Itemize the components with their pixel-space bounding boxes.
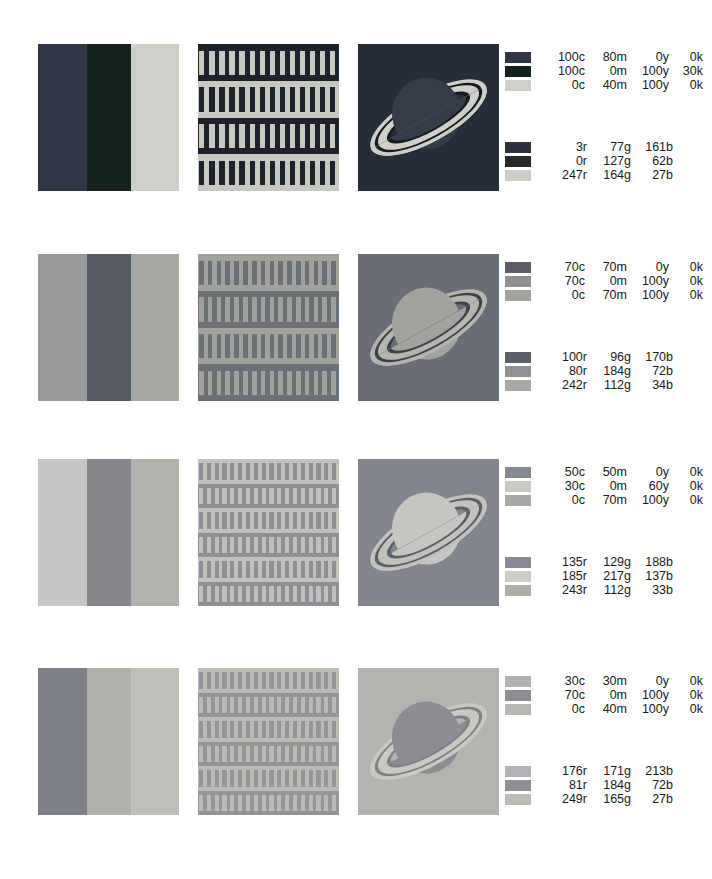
grid-bar <box>320 87 325 111</box>
grid-bar <box>269 561 273 577</box>
vertical-bands <box>38 459 179 606</box>
grid-bar <box>285 561 289 577</box>
cmyk-row: 0c40m100y0k <box>505 702 703 716</box>
grid-bar <box>332 746 336 762</box>
grid-bar <box>243 334 248 358</box>
cmyk-swatch-group: 70c70m0y0k70c0m100y0k0c70m100y0k <box>505 260 703 302</box>
grid-bar <box>217 297 222 321</box>
grid-bar <box>301 721 305 737</box>
grid-bar <box>324 697 328 713</box>
grid-bar <box>269 770 273 786</box>
cmyk-values: 0c40m100y0k <box>547 78 703 92</box>
red-value: 185r <box>547 569 587 583</box>
grid-bar <box>285 488 289 504</box>
panel-bar-grid-3 <box>198 459 339 606</box>
grid-bar <box>222 795 226 811</box>
grid-band-2 <box>198 693 339 718</box>
grid-bar <box>277 721 281 737</box>
cyan-value: 100c <box>547 64 585 78</box>
red-value: 81r <box>547 778 587 792</box>
yellow-value: 0y <box>627 465 669 479</box>
grid-bar <box>215 770 219 786</box>
grid-bar <box>262 721 266 737</box>
grid-bar <box>230 488 234 504</box>
grid-bar <box>254 537 258 553</box>
black-value: 0k <box>669 50 703 64</box>
grid-bar <box>261 261 266 285</box>
grid-bar <box>215 746 219 762</box>
color-swatch <box>505 352 531 363</box>
grid-bar <box>230 537 234 553</box>
red-value: 243r <box>547 583 587 597</box>
grid-bar <box>316 586 320 602</box>
band-3 <box>131 254 179 401</box>
vertical-bands <box>38 44 179 191</box>
blue-value: 170b <box>631 350 673 364</box>
grid-bar <box>285 463 289 479</box>
rgb-row: 247r164g27b <box>505 168 673 182</box>
grid-bar <box>300 124 305 148</box>
color-swatch <box>505 290 531 301</box>
grid-bar <box>246 537 250 553</box>
blue-value: 27b <box>631 168 673 182</box>
grid-bar <box>230 586 234 602</box>
grid-bar <box>199 261 204 285</box>
color-swatch <box>505 780 531 791</box>
rgb-values: 247r164g27b <box>547 168 673 182</box>
color-swatch <box>505 80 531 91</box>
grid-bar <box>246 795 250 811</box>
grid-bar <box>262 795 266 811</box>
grid-bar <box>269 488 273 504</box>
grid-bar <box>277 672 281 688</box>
grid-bar <box>270 51 275 75</box>
cmyk-row: 0c70m100y0k <box>505 288 703 302</box>
color-swatch <box>505 380 531 391</box>
grid-bar <box>239 51 244 75</box>
grid-bar <box>332 586 336 602</box>
grid-bar <box>324 770 328 786</box>
rgb-swatch-group: 176r171g213b81r184g72b249r165g27b <box>505 764 673 806</box>
grid-bar <box>287 334 292 358</box>
grid-bar <box>254 488 258 504</box>
grid-bar <box>270 261 275 285</box>
cmyk-row: 0c40m100y0k <box>505 78 703 92</box>
grid-bar <box>215 537 219 553</box>
grid-bar <box>230 672 234 688</box>
cyan-value: 70c <box>547 688 585 702</box>
grid-bar <box>208 261 213 285</box>
grid-bar <box>199 721 203 737</box>
grid-bar <box>238 672 242 688</box>
legend-1: 100c80m0y0k100c0m100y30k0c40m100y0k3r77g… <box>505 44 705 191</box>
grid-bar <box>301 463 305 479</box>
cyan-value: 50c <box>547 465 585 479</box>
cyan-value: 100c <box>547 50 585 64</box>
panel-vertical-bands-3 <box>38 459 179 606</box>
grid-bar <box>309 561 313 577</box>
panel-saturn-2 <box>358 254 499 401</box>
grid-bar <box>262 488 266 504</box>
grid-bar <box>269 463 273 479</box>
grid-bar <box>305 297 310 321</box>
rgb-row: 100r96g170b <box>505 350 673 364</box>
image-row-1: 100c80m0y0k100c0m100y30k0c40m100y0k3r77g… <box>0 44 712 191</box>
grid-bar <box>260 161 265 185</box>
magenta-value: 0m <box>585 274 627 288</box>
grid-bar <box>269 537 273 553</box>
grid-bar <box>316 795 320 811</box>
grid-bar <box>290 124 295 148</box>
grid-bar <box>222 488 226 504</box>
grid-bar <box>331 334 336 358</box>
grid-band-4 <box>198 533 339 558</box>
grid-bar <box>280 51 285 75</box>
panel-bar-grid-2 <box>198 254 339 401</box>
grid-bar <box>332 672 336 688</box>
rgb-row: 176r171g213b <box>505 764 673 778</box>
grid-bar <box>310 87 315 111</box>
grid-bar <box>246 488 250 504</box>
green-value: 184g <box>587 364 631 378</box>
grid-bar <box>309 672 313 688</box>
grid-bar <box>199 770 203 786</box>
grid-bar <box>217 371 222 395</box>
blue-value: 72b <box>631 364 673 378</box>
cmyk-swatch-group: 30c30m0y0k70c0m100y0k0c40m100y0k <box>505 674 703 716</box>
